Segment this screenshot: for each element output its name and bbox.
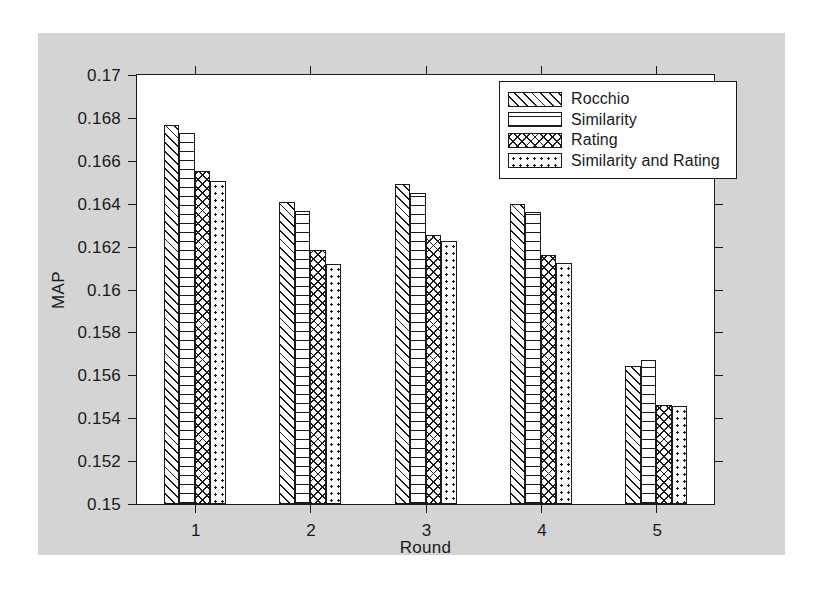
x-axis-tick-label: 3 (422, 521, 431, 541)
y-axis-label: MAP (49, 271, 69, 309)
y-axis-tick-right (714, 290, 723, 291)
y-axis-tick-label: 0.17 (87, 66, 121, 86)
y-axis-tick-right (714, 461, 723, 462)
bar-rating-round-3 (426, 235, 442, 504)
x-axis-tick: 4 (541, 504, 542, 513)
y-axis-tick-label: 0.168 (77, 109, 121, 129)
legend-item: Similarity and Rating (508, 151, 728, 170)
x-axis-tick-label: 5 (653, 521, 662, 541)
y-axis-tick-right (714, 332, 723, 333)
bar-rating-round-2 (310, 250, 326, 504)
x-axis-tick: 5 (656, 504, 657, 513)
bar-rating-round-5 (656, 405, 672, 504)
y-axis-tick: 0.17 (128, 75, 137, 76)
legend-label: Similarity (571, 111, 637, 129)
y-axis-tick: 0.152 (128, 461, 137, 462)
bar-rocchio-round-1 (164, 125, 180, 504)
x-axis-tick-label: 4 (537, 521, 546, 541)
y-axis-tick: 0.16 (128, 290, 137, 291)
y-axis-tick-label: 0.166 (77, 152, 121, 172)
legend-item: Rating (508, 131, 728, 150)
x-axis-label: Round (400, 538, 452, 558)
legend-swatch-similarity-and-rating-icon (508, 153, 562, 168)
x-axis-tick-top (310, 66, 311, 75)
bar-rocchio-round-4 (510, 204, 526, 504)
y-axis-tick: 0.156 (128, 375, 137, 376)
y-axis-tick-label: 0.156 (77, 366, 121, 386)
bar-rocchio-round-3 (395, 184, 411, 504)
y-axis-tick-right (714, 375, 723, 376)
y-axis-tick-right (714, 418, 723, 419)
legend-item: Similarity (508, 110, 728, 129)
bar-similarity-and-rating-round-3 (441, 241, 457, 504)
x-axis-tick-top (195, 66, 196, 75)
y-axis-tick-right (714, 204, 723, 205)
bar-similarity-and-rating-round-2 (326, 264, 342, 504)
bar-rocchio-round-2 (279, 202, 295, 504)
legend-item: Rocchio (508, 90, 728, 109)
y-axis-tick-right (714, 247, 723, 248)
x-axis-tick-label: 2 (306, 521, 315, 541)
bar-rating-round-1 (195, 171, 211, 504)
legend-swatch-rocchio-icon (508, 92, 562, 107)
y-axis-tick-label: 0.158 (77, 323, 121, 343)
y-axis-tick: 0.15 (128, 504, 137, 505)
figure-canvas: MAP Round 0.150.1520.1540.1560.1580.160.… (38, 33, 785, 555)
x-axis-tick: 2 (310, 504, 311, 513)
legend-label: Rating (571, 131, 618, 149)
legend-label: Similarity and Rating (571, 152, 720, 170)
y-axis-tick: 0.166 (128, 161, 137, 162)
x-axis-tick-top (541, 66, 542, 75)
y-axis-tick-label: 0.164 (77, 195, 121, 215)
bar-similarity-round-4 (525, 212, 541, 504)
bar-similarity-round-1 (179, 133, 195, 504)
x-axis-tick: 3 (426, 504, 427, 513)
y-axis-tick: 0.168 (128, 118, 137, 119)
x-axis-tick-top (426, 66, 427, 75)
y-axis-tick-label: 0.154 (77, 409, 121, 429)
y-axis-tick: 0.154 (128, 418, 137, 419)
plot-area: MAP Round 0.150.1520.1540.1560.1580.160.… (136, 74, 715, 505)
y-axis-tick: 0.162 (128, 247, 137, 248)
y-axis-tick-label: 0.162 (77, 238, 121, 258)
y-axis-tick-label: 0.152 (77, 452, 121, 472)
chart-legend: Rocchio Similarity Rating Similarity and… (499, 81, 737, 179)
legend-label: Rocchio (571, 90, 630, 108)
bar-rocchio-round-5 (625, 366, 641, 504)
y-axis-tick-label: 0.16 (87, 281, 121, 301)
bar-rating-round-4 (541, 255, 557, 504)
y-axis-tick: 0.158 (128, 332, 137, 333)
x-axis-tick: 1 (195, 504, 196, 513)
bar-similarity-and-rating-round-1 (210, 181, 226, 504)
x-axis-tick-label: 1 (191, 521, 200, 541)
legend-swatch-similarity-icon (508, 112, 562, 127)
x-axis-tick-top (656, 66, 657, 75)
bar-similarity-and-rating-round-4 (556, 263, 572, 504)
bar-similarity-round-3 (410, 193, 426, 504)
legend-swatch-rating-icon (508, 133, 562, 148)
bar-similarity-round-5 (641, 360, 657, 504)
bar-similarity-and-rating-round-5 (672, 406, 688, 504)
y-axis-tick: 0.164 (128, 204, 137, 205)
y-axis-tick-label: 0.15 (87, 495, 121, 515)
bar-similarity-round-2 (295, 211, 311, 504)
